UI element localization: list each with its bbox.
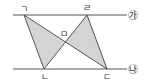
label-line-na: ㉯: [128, 64, 138, 75]
label-point-g: ㄱ: [20, 4, 28, 14]
label-point-m: ㅁ: [60, 29, 68, 39]
label-point-d: ㄷ: [103, 72, 111, 82]
label-point-r: ㄹ: [83, 3, 91, 13]
label-point-n: ㄴ: [41, 72, 49, 82]
geometry-diagram: ㄱ ㄹ ㄴ ㄷ ㅁ ㉮ ㉯: [0, 0, 149, 82]
shaded-triangle-left: [24, 15, 65, 69]
shaded-triangle-right: [65, 15, 107, 69]
label-line-ga: ㉮: [128, 10, 138, 21]
